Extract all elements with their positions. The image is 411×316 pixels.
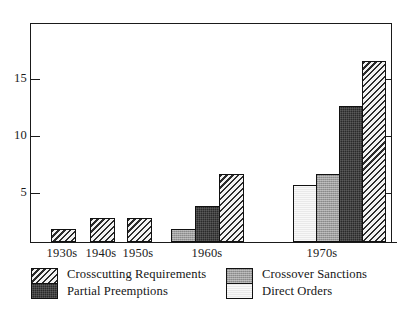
legend-label-crosscutting-requirements: Crosscutting Requirements [67,266,206,283]
plot-area [30,23,392,243]
x-tick-separator-5 [281,242,290,243]
legend-labels-left: Crosscutting Requirements Partial Preemp… [67,266,206,299]
y-axis-tick-label-15: 15 [3,72,27,85]
legend-label-partial-preemptions: Partial Preemptions [67,283,206,300]
y-tick-left-5 [31,193,40,194]
x-tick-separator-4 [246,242,255,243]
y-axis-tick-label-10: 10 [3,129,27,142]
bar-1970s-crosscutting-requirements [362,61,386,242]
y-axis-tick-label-5: 5 [3,186,27,199]
bar-1960s-crosscutting-requirements [219,174,244,242]
legend-labels-right: Crossover Sanctions Direct Orders [262,266,367,299]
x-tick-separator-1 [78,242,87,243]
x-tick-separator-6 [388,242,397,243]
x-tick-separator-3 [154,242,163,243]
x-tick-separator-2 [116,242,125,243]
legend-swatch-crosscutting-requirements [32,269,57,284]
y-tick-left-15 [31,79,40,80]
legend-swatch-left [31,268,58,299]
chart-legend: Crosscutting Requirements Partial Preemp… [0,266,411,310]
x-axis-label-1960s: 1960s [177,247,237,260]
y-tick-left-10 [31,136,40,137]
legend-swatch-right [226,268,253,299]
bar-1970s-direct-orders [293,185,317,242]
x-axis-label-1970s: 1970s [292,247,352,260]
x-axis-label-1950s: 1950s [108,247,168,260]
bar-1960s-crossover-sanctions [171,229,196,242]
bar-1940s-crosscutting-requirements [90,218,115,242]
bar-1950s-crosscutting-requirements [127,218,152,242]
legend-swatch-partial-preemptions [32,284,57,299]
legend-swatch-crossover-sanctions [227,269,252,284]
bar-1970s-partial-preemptions [339,106,363,242]
legend-swatch-direct-orders [227,284,252,299]
x-tick-separator-0 [39,242,48,243]
bar-chart-figure: 15 10 5 19 [0,0,411,316]
bar-1970s-crossover-sanctions [316,174,340,242]
legend-label-crossover-sanctions: Crossover Sanctions [262,266,367,283]
bar-1930s-crosscutting-requirements [51,229,76,242]
legend-label-direct-orders: Direct Orders [262,283,367,300]
bar-1960s-partial-preemptions [195,206,220,242]
